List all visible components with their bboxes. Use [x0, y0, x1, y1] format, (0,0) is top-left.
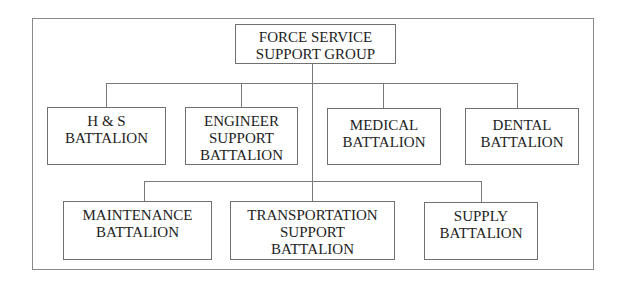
node-transportation-support-battalion: TRANSPORTATION SUPPORT BATTALION [230, 201, 395, 260]
row1-drop-hs [106, 83, 107, 107]
row1-drop-engineer [241, 83, 242, 107]
row2-drop-maintenance [144, 181, 145, 201]
node-dental-battalion: DENTAL BATTALION [465, 108, 579, 165]
row1-drop-medical [383, 83, 384, 108]
row1-drop-dental [517, 83, 518, 108]
node-engineer-support-battalion: ENGINEER SUPPORT BATTALION [185, 107, 298, 165]
row1-bus [106, 83, 518, 84]
node-maintenance-battalion: MAINTENANCE BATTALION [63, 201, 212, 260]
node-force-service-support-group: FORCE SERVICE SUPPORT GROUP [235, 24, 396, 64]
node-medical-battalion: MEDICAL BATTALION [327, 108, 441, 165]
row2-drop-supply [481, 181, 482, 202]
node-supply-battalion: SUPPLY BATTALION [424, 202, 538, 260]
node-hs-battalion: H & S BATTALION [47, 107, 166, 165]
row2-bus [144, 181, 482, 182]
